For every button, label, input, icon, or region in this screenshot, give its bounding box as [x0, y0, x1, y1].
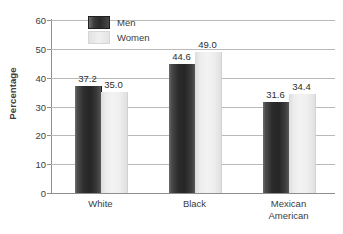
legend-swatch-men-icon: [88, 16, 110, 29]
category-label-line: Black: [183, 198, 206, 209]
bar-men-white[interactable]: [75, 86, 102, 193]
bar-women-white[interactable]: [101, 92, 128, 193]
bar-men-black[interactable]: [169, 64, 196, 193]
y-tick-label: 60: [22, 15, 46, 26]
y-tick-label: 10: [22, 159, 46, 170]
bar-women-black[interactable]: [195, 52, 222, 193]
category-label-line: Mexican: [271, 198, 306, 209]
y-tick-label: 20: [22, 130, 46, 141]
y-tick-mark: [47, 49, 51, 50]
legend-label-women: Women: [117, 32, 150, 43]
category-label-line: White: [88, 198, 112, 209]
plot-area: 37.235.044.649.031.634.4: [51, 20, 335, 193]
y-tick-label: 0: [22, 188, 46, 199]
bar-women-mexican-american[interactable]: [289, 94, 316, 193]
legend-swatch-women-icon: [88, 31, 110, 44]
legend-label-men: Men: [117, 17, 135, 28]
legend-item-women[interactable]: Women: [88, 30, 150, 45]
y-tick-mark: [47, 135, 51, 136]
x-axis-line: [51, 193, 335, 194]
category-label-line: American: [268, 210, 308, 221]
y-tick-mark: [47, 20, 51, 21]
category-label-white: White: [88, 198, 112, 210]
bar-value-label: 31.6: [266, 89, 285, 100]
y-tick-mark: [47, 193, 51, 194]
y-axis-title: Percentage: [7, 54, 18, 134]
y-tick-mark: [47, 78, 51, 79]
bar-value-label: 49.0: [198, 39, 217, 50]
bar-value-label: 44.6: [172, 51, 191, 62]
y-tick-mark: [47, 107, 51, 108]
y-tick-mark: [47, 164, 51, 165]
category-label-black: Black: [183, 198, 206, 210]
gridline: [51, 49, 335, 50]
bar-men-mexican-american[interactable]: [263, 102, 290, 193]
y-tick-label: 40: [22, 72, 46, 83]
category-label-mexican-american: MexicanAmerican: [268, 198, 308, 221]
y-tick-label: 30: [22, 101, 46, 112]
bar-value-label: 35.0: [104, 79, 123, 90]
y-tick-label: 50: [22, 43, 46, 54]
legend: Men Women: [88, 15, 150, 45]
legend-item-men[interactable]: Men: [88, 15, 150, 30]
bar-value-label: 34.4: [292, 81, 311, 92]
bar-chart: Percentage 37.235.044.649.031.634.4 0102…: [0, 0, 343, 234]
bar-value-label: 37.2: [78, 73, 97, 84]
